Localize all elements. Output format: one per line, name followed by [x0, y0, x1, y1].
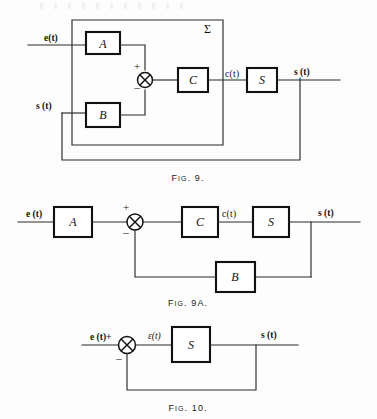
fig9-label-input-e: e(t) [44, 33, 58, 44]
figure-9-diagram: A B + – C S e(t) s (t) c(t) s (t) Σ FIG.… [0, 0, 377, 190]
fig9-wire-b-to-sum [120, 90, 145, 115]
fig9-block-b-label: B [99, 108, 107, 122]
fig9-label-input-s: s (t) [36, 101, 52, 112]
fig9a-block-c-label: C [196, 215, 205, 229]
fig10-label-error-eps: ε(t) [148, 331, 161, 342]
fig9-label-output-s: s (t) [294, 67, 310, 78]
figure-9a-diagram: A + – C S B e (t) c(t) s (t) FIG. 9A. [0, 192, 377, 312]
fig9-sigma-symbol: Σ [204, 22, 211, 36]
fig9-sum-minus: – [133, 81, 140, 93]
fig9-label-mid-c: c(t) [225, 69, 239, 80]
fig9-block-c-label: C [189, 73, 198, 87]
fig10-sum-minus: – [115, 352, 122, 364]
fig9-block-a-label: A [98, 37, 107, 51]
fig10-label-input-e: e (t)+ [90, 332, 112, 343]
fig9-sum-plus: + [134, 60, 140, 72]
fig9a-block-s-label: S [268, 215, 274, 229]
figure-page: A B + – C S e(t) s (t) c(t) s (t) Σ FIG.… [0, 0, 377, 419]
fig10-label-output-s: s (t) [261, 330, 277, 341]
fig9a-block-a-label: A [68, 215, 77, 229]
fig9a-label-output-s: s (t) [318, 208, 334, 219]
figure-9a-caption: FIG. 9A. [168, 298, 208, 308]
fig9a-label-input-e: e (t) [26, 209, 42, 220]
fig9-wire-a-to-sum [120, 45, 145, 70]
fig9a-sum-plus: + [123, 201, 129, 213]
fig9a-label-mid-c: c(t) [222, 209, 236, 220]
figure-10-diagram: – S e (t)+ ε(t) s (t) FIG. 10. [0, 312, 377, 419]
fig9a-block-b-label: B [231, 270, 239, 284]
fig9a-sum-minus: – [122, 226, 129, 238]
figure-10-caption: FIG. 10. [168, 403, 207, 413]
fig10-block-s-label: S [188, 338, 194, 352]
figure-9-caption: FIG. 9. [171, 173, 204, 183]
fig9-block-s-label: S [259, 73, 265, 87]
